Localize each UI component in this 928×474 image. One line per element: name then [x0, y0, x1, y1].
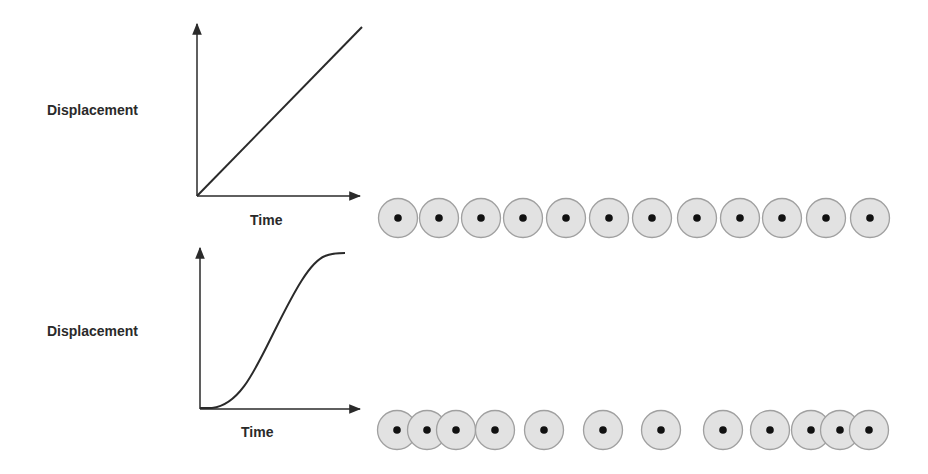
- bottom-particle-row: [378, 411, 889, 450]
- particle-center-dot: [562, 214, 570, 222]
- particle-center-dot: [778, 214, 786, 222]
- particle-center-dot: [394, 214, 402, 222]
- bottom-x-axis-label: Time: [241, 424, 273, 440]
- top-x-axis-label: Time: [250, 212, 282, 228]
- bottom-s-curve: [200, 253, 345, 408]
- top-graph: [197, 24, 362, 196]
- bottom-y-axis-label: Displacement: [47, 323, 138, 339]
- particle-center-dot: [435, 214, 443, 222]
- particle-center-dot: [540, 426, 548, 434]
- top-y-axis-label: Displacement: [47, 102, 138, 118]
- particle-center-dot: [519, 214, 527, 222]
- particle-center-dot: [836, 426, 844, 434]
- particle-center-dot: [393, 426, 401, 434]
- particle-center-dot: [736, 214, 744, 222]
- particle-center-dot: [452, 426, 460, 434]
- particle-center-dot: [599, 426, 607, 434]
- particle-center-dot: [605, 214, 613, 222]
- particle-center-dot: [866, 214, 874, 222]
- top-linear-curve: [197, 27, 362, 196]
- particle-center-dot: [766, 426, 774, 434]
- particle-center-dot: [491, 426, 499, 434]
- particle-center-dot: [719, 426, 727, 434]
- bottom-graph: [200, 248, 360, 409]
- particle-center-dot: [657, 426, 665, 434]
- particle-center-dot: [693, 214, 701, 222]
- particle-center-dot: [822, 214, 830, 222]
- particle-center-dot: [423, 426, 431, 434]
- particle-center-dot: [477, 214, 485, 222]
- diagram-svg: [0, 0, 928, 474]
- particle-center-dot: [648, 214, 656, 222]
- particle-center-dot: [807, 426, 815, 434]
- top-particle-row: [379, 199, 890, 238]
- particle-center-dot: [865, 426, 873, 434]
